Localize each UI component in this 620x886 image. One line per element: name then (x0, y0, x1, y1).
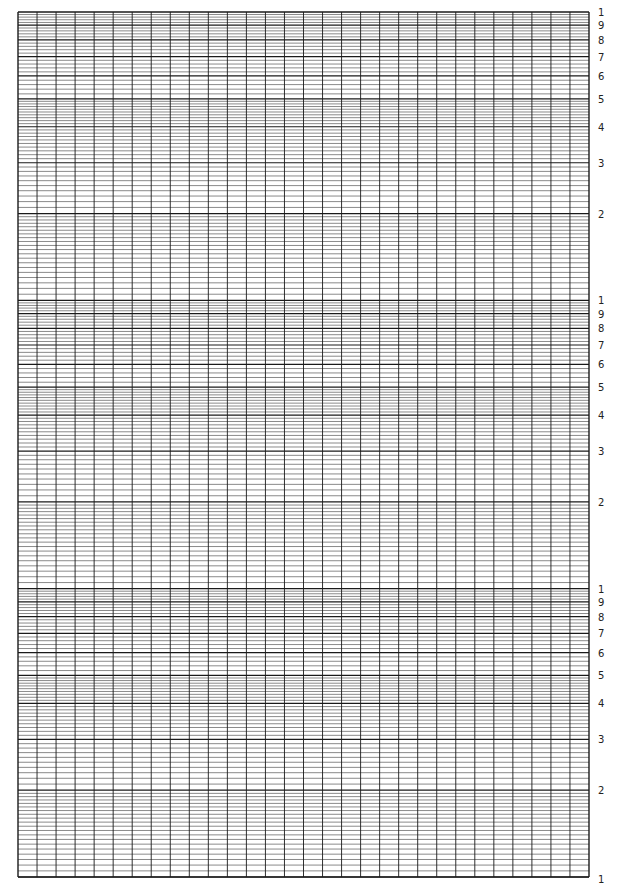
y-tick-label: 2 (598, 498, 604, 508)
y-tick-label: 4 (598, 411, 604, 421)
y-tick-label: 2 (598, 786, 604, 796)
y-tick-label: 5 (598, 95, 604, 105)
y-tick-label: 7 (598, 53, 604, 63)
y-tick-label: 1 (598, 8, 604, 18)
y-tick-label: 2 (598, 210, 604, 220)
y-tick-label: 4 (598, 123, 604, 133)
y-tick-label: 8 (598, 613, 604, 623)
y-tick-label-bottom: 1 (598, 875, 604, 885)
y-tick-label: 5 (598, 383, 604, 393)
y-tick-label: 3 (598, 447, 604, 457)
y-tick-label: 9 (598, 21, 604, 31)
y-tick-label: 9 (598, 598, 604, 608)
semilog-graph-paper (0, 0, 620, 886)
y-tick-label: 6 (598, 649, 604, 659)
y-tick-label: 1 (598, 296, 604, 306)
y-tick-label: 7 (598, 341, 604, 351)
y-tick-label: 9 (598, 310, 604, 320)
y-tick-label: 8 (598, 324, 604, 334)
y-tick-label: 8 (598, 36, 604, 46)
y-tick-label: 3 (598, 159, 604, 169)
y-tick-label: 5 (598, 671, 604, 681)
y-tick-label: 6 (598, 72, 604, 82)
y-tick-label: 1 (598, 585, 604, 595)
y-tick-label: 4 (598, 699, 604, 709)
y-tick-label: 3 (598, 735, 604, 745)
y-tick-label: 6 (598, 360, 604, 370)
y-tick-label: 7 (598, 629, 604, 639)
